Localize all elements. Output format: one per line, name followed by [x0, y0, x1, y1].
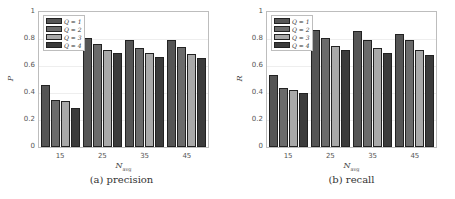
- y-tick-label: 1: [243, 7, 263, 15]
- legend-label: Q = 3: [64, 34, 82, 41]
- bar-q4-n35: [383, 53, 392, 148]
- legend-label: Q = 3: [292, 34, 310, 41]
- x-tick-label: 35: [363, 152, 383, 160]
- legend-item: Q = 3: [46, 33, 82, 41]
- x-tick-label: 25: [320, 152, 340, 160]
- bar-q1-n25: [83, 38, 92, 147]
- y-tick-label: 0.2: [15, 115, 35, 123]
- legend: Q = 1Q = 2Q = 3Q = 4: [271, 15, 313, 51]
- x-axis-label-subscript: avg: [351, 166, 360, 172]
- bar-q3-n35: [373, 48, 382, 147]
- y-tick-label: 0.4: [15, 88, 35, 96]
- figure-caption: (b) recall: [238, 174, 455, 185]
- legend: Q = 1Q = 2Q = 3Q = 4: [43, 15, 85, 51]
- legend-label: Q = 4: [64, 42, 82, 49]
- bar-q3-n45: [187, 54, 196, 147]
- legend-label: Q = 1: [64, 18, 82, 25]
- legend-swatch: [274, 18, 290, 24]
- x-tick-label: 35: [135, 152, 155, 160]
- bar-q4-n35: [155, 57, 164, 147]
- legend-label: Q = 2: [292, 26, 310, 33]
- x-tick-label: 45: [405, 152, 425, 160]
- bar-q1-n45: [395, 34, 404, 147]
- y-axis-label: R: [235, 75, 244, 81]
- bar-q4-n15: [299, 93, 308, 147]
- bar-q2-n25: [93, 44, 102, 147]
- x-axis-label-main: N: [344, 161, 351, 170]
- legend-item: Q = 1: [46, 17, 82, 25]
- legend-item: Q = 4: [46, 41, 82, 49]
- legend-label: Q = 1: [292, 18, 310, 25]
- bar-q1-n15: [269, 75, 278, 147]
- plot-area: Q = 1Q = 2Q = 3Q = 4: [38, 11, 209, 148]
- figure-caption: (a) precision: [8, 174, 235, 185]
- legend-swatch: [46, 34, 62, 40]
- bar-q3-n25: [103, 50, 112, 147]
- y-tick-label: 0: [243, 142, 263, 150]
- legend-swatch: [274, 42, 290, 48]
- legend-swatch: [46, 18, 62, 24]
- y-tick-label: 0.8: [243, 34, 263, 42]
- bar-q4-n25: [341, 50, 350, 147]
- x-tick-label: 15: [278, 152, 298, 160]
- bar-q2-n45: [405, 40, 414, 147]
- x-tick-label: 15: [50, 152, 70, 160]
- bar-q4-n45: [197, 58, 206, 147]
- y-tick-label: 1: [15, 7, 35, 15]
- bar-q2-n45: [177, 47, 186, 147]
- bar-q1-n45: [167, 40, 176, 147]
- recall-panel: Q = 1Q = 2Q = 3Q = 400.20.40.60.81152535…: [228, 0, 455, 199]
- legend-swatch: [46, 42, 62, 48]
- x-axis-label: Navg: [344, 161, 360, 172]
- y-tick-label: 0.6: [15, 61, 35, 69]
- y-tick-label: 0.2: [243, 115, 263, 123]
- x-tick-label: 25: [92, 152, 112, 160]
- x-axis-label: Navg: [116, 161, 132, 172]
- bar-q3-n45: [415, 50, 424, 147]
- bar-q3-n15: [61, 101, 70, 147]
- y-tick-label: 0.4: [243, 88, 263, 96]
- bar-q1-n35: [125, 40, 134, 147]
- legend-item: Q = 4: [274, 41, 310, 49]
- legend-item: Q = 2: [46, 25, 82, 33]
- bar-q2-n35: [363, 40, 372, 147]
- legend-swatch: [274, 26, 290, 32]
- plot-area: Q = 1Q = 2Q = 3Q = 4: [266, 11, 437, 148]
- x-tick-label: 45: [177, 152, 197, 160]
- legend-swatch: [274, 34, 290, 40]
- bar-q3-n15: [289, 90, 298, 147]
- y-tick-label: 0.8: [15, 34, 35, 42]
- bar-q2-n35: [135, 48, 144, 147]
- legend-label: Q = 4: [292, 42, 310, 49]
- legend-item: Q = 3: [274, 33, 310, 41]
- y-tick-label: 0: [15, 142, 35, 150]
- bar-q2-n25: [321, 38, 330, 147]
- x-axis-label-main: N: [116, 161, 123, 170]
- legend-label: Q = 2: [64, 26, 82, 33]
- bar-q2-n15: [279, 88, 288, 147]
- x-axis-label-subscript: avg: [123, 166, 132, 172]
- bar-q4-n25: [113, 53, 122, 148]
- legend-item: Q = 2: [274, 25, 310, 33]
- bar-q3-n35: [145, 53, 154, 148]
- bar-q1-n15: [41, 85, 50, 147]
- bar-q2-n15: [51, 100, 60, 147]
- precision-panel: Q = 1Q = 2Q = 3Q = 400.20.40.60.81152535…: [0, 0, 227, 199]
- bar-q1-n35: [353, 31, 362, 147]
- bar-q3-n25: [331, 46, 340, 147]
- legend-item: Q = 1: [274, 17, 310, 25]
- legend-swatch: [46, 26, 62, 32]
- bar-q4-n15: [71, 108, 80, 147]
- bar-q4-n45: [425, 55, 434, 147]
- y-tick-label: 0.6: [243, 61, 263, 69]
- y-axis-label: P: [6, 75, 15, 80]
